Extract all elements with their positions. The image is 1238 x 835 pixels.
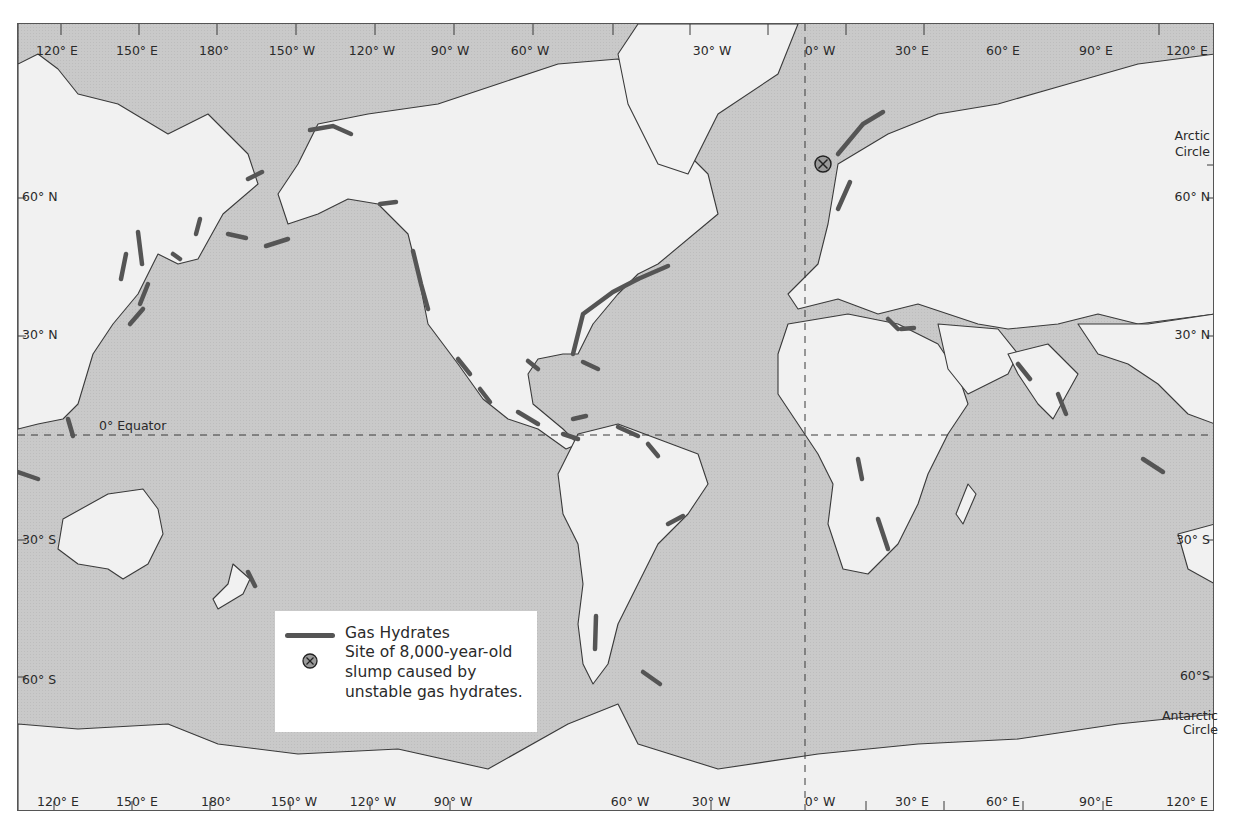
lon-label-bottom-0: 120° E <box>37 796 79 809</box>
lon-label-bottom-12: 120° E <box>1166 796 1208 809</box>
lat-label-left-60s: 60° S <box>22 674 56 687</box>
lon-label-bottom-1: 150° E <box>116 796 158 809</box>
lon-label-top-5: 90° W <box>431 45 470 58</box>
map-legend: Gas Hydrates Site of 8,000-year-old slum… <box>275 611 537 732</box>
lon-label-bottom-9: 30° E <box>895 796 929 809</box>
legend-slump-line2: slump caused by <box>345 663 476 682</box>
lon-label-top-0: 120° E <box>36 45 78 58</box>
lon-label-top-10: 60° E <box>986 45 1020 58</box>
antarctic-circle-line1: Antarctic <box>1162 709 1218 723</box>
lon-label-bottom-11: 90° E <box>1079 796 1113 809</box>
lon-label-bottom-4: 120° W <box>350 796 396 809</box>
lon-label-top-11: 90° E <box>1079 45 1113 58</box>
lon-label-top-6: 60° W <box>511 45 550 58</box>
antarctic-circle-line2: Circle <box>1162 723 1218 737</box>
slump-site-marker <box>815 156 831 172</box>
lat-label-left-60n: 60° N <box>22 191 57 204</box>
lat-label-right-30s: 30° S <box>1176 534 1210 547</box>
lon-label-bottom-2: 180° <box>201 796 231 809</box>
antarctic-circle-label: Antarctic Circle <box>1162 709 1218 737</box>
lon-label-bottom-6: 60° W <box>611 796 650 809</box>
lon-label-bottom-7: 30° W <box>692 796 731 809</box>
lon-label-top-4: 120° W <box>349 45 395 58</box>
lon-label-bottom-3: 150° W <box>271 796 317 809</box>
circled-x-icon <box>302 653 318 669</box>
legend-slump-line3: unstable gas hydrates. <box>345 683 523 702</box>
lon-label-bottom-5: 90° W <box>434 796 473 809</box>
lon-label-bottom-8: 0° W <box>805 796 836 809</box>
gas-hydrate-line-icon <box>285 633 335 638</box>
lat-label-right-60s: 60°S <box>1180 670 1210 683</box>
equator-label: 0° Equator <box>99 420 166 433</box>
lat-label-left-30n: 30° N <box>22 329 57 342</box>
map-canvas <box>18 24 1214 811</box>
lon-label-top-8: 0° W <box>805 45 836 58</box>
lat-label-right-60n: 60° N <box>1175 191 1210 204</box>
lon-label-top-9: 30° E <box>895 45 929 58</box>
lat-label-left-30s: 30° S <box>22 534 56 547</box>
lon-label-top-1: 150° E <box>116 45 158 58</box>
arctic-circle-label: Arctic Circle <box>1174 128 1210 159</box>
arctic-circle-line2: Circle <box>1174 144 1210 160</box>
world-map <box>17 23 1214 811</box>
lon-label-top-3: 150° W <box>269 45 315 58</box>
legend-slump-line1: Site of 8,000-year-old <box>345 643 512 662</box>
lon-label-top-2: 180° <box>199 45 229 58</box>
legend-gas-hydrates-label: Gas Hydrates <box>345 624 450 643</box>
lon-label-top-12: 120° E <box>1166 45 1208 58</box>
lon-label-top-7: 30° W <box>693 45 732 58</box>
arctic-circle-line1: Arctic <box>1174 128 1210 144</box>
lat-label-right-30n: 30° N <box>1175 329 1210 342</box>
lon-label-bottom-10: 60° E <box>986 796 1020 809</box>
